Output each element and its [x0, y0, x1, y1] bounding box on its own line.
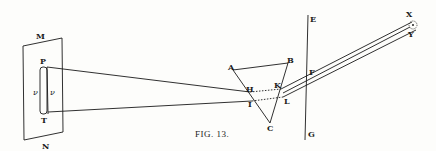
label-t: T: [41, 115, 47, 125]
diagram-svg: M N P T A B C H I K L E F G X Y ν ν FIG.…: [0, 0, 436, 151]
internal-ray-i-l: [252, 97, 283, 101]
label-m: M: [36, 31, 45, 41]
label-nu-right: ν: [50, 88, 55, 97]
eye-center-dot: [412, 24, 413, 25]
label-c: C: [267, 123, 273, 133]
label-k: K: [274, 80, 282, 90]
label-y: Y: [407, 29, 414, 39]
label-nu-left: ν: [33, 88, 38, 97]
label-e: E: [310, 14, 316, 24]
ray-p-to-h: [47, 67, 250, 92]
label-i: I: [248, 99, 252, 109]
label-p: P: [40, 56, 46, 66]
ray-t-to-i: [48, 101, 252, 112]
figure-caption: FIG. 13.: [195, 129, 229, 139]
label-a: A: [227, 62, 235, 72]
slit-pt: [40, 67, 47, 114]
prism-abc: [233, 63, 288, 123]
label-b: B: [287, 55, 294, 65]
figure-13-diagram: M N P T A B C H I K L E F G X Y ν ν FIG.…: [0, 0, 436, 151]
ray-l-to-y: [283, 30, 416, 97]
label-x: X: [406, 9, 413, 19]
label-l: L: [284, 96, 290, 106]
line-eg: [305, 15, 308, 140]
label-g: G: [308, 129, 315, 139]
ray-k-to-x: [281, 22, 412, 89]
label-n: N: [42, 141, 49, 151]
ray-l-to-x: [283, 27, 410, 93]
label-h: H: [246, 84, 254, 94]
label-f: F: [309, 67, 315, 77]
